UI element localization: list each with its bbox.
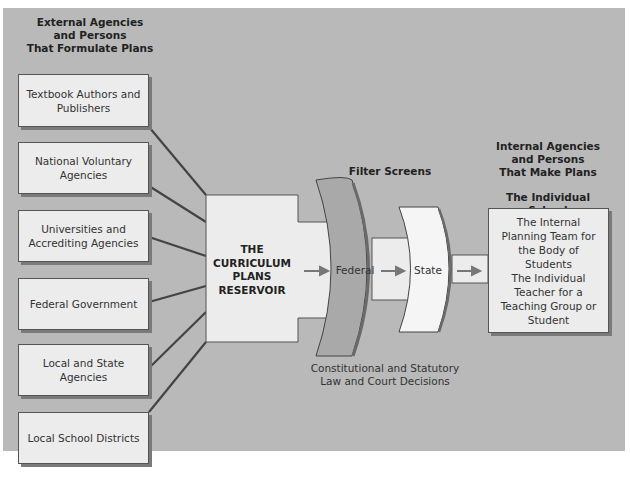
individual-school-box: The Internal Planning Team for the Body …: [488, 208, 609, 333]
school-item-individual-teacher: The Individual Teacher for a Teaching Gr…: [493, 271, 605, 327]
header-line: That Make Plans: [488, 166, 608, 179]
agency-label: National Voluntary Agencies: [19, 154, 148, 182]
right-header: Internal Agencies and Persons That Make …: [488, 140, 608, 179]
reservoir-line: CURRICULUM: [208, 257, 296, 271]
agency-box-local-districts: Local School Districts: [18, 412, 149, 464]
agency-label: Local School Districts: [28, 431, 140, 445]
agency-box-universities: Universities and Accrediting Agencies: [18, 210, 149, 262]
agency-box-national-voluntary: National Voluntary Agencies: [18, 142, 149, 194]
header-line: Internal Agencies: [488, 140, 608, 153]
reservoir-label: THE CURRICULUM PLANS RESERVOIR: [208, 243, 296, 297]
reservoir-line: RESERVOIR: [208, 284, 296, 298]
reservoir-line: THE: [208, 243, 296, 257]
caption-line: Law and Court Decisions: [300, 375, 470, 388]
filter-state-label: State: [410, 264, 446, 277]
filter-federal-label: Federal: [330, 264, 380, 277]
agency-box-textbook-authors: Textbook Authors and Publishers: [18, 74, 149, 127]
agency-label: Local and State Agencies: [19, 356, 148, 384]
header-line: and Persons: [488, 153, 608, 166]
agency-box-federal-government: Federal Government: [18, 278, 149, 330]
filter-caption: Constitutional and Statutory Law and Cou…: [300, 362, 470, 388]
agency-label: Textbook Authors and Publishers: [19, 87, 148, 115]
agency-label: Universities and Accrediting Agencies: [19, 222, 148, 250]
agency-label: Federal Government: [30, 297, 138, 311]
agency-box-local-state: Local and State Agencies: [18, 344, 149, 396]
reservoir-line: PLANS: [208, 270, 296, 284]
filter-screens-title: Filter Screens: [340, 165, 440, 178]
caption-line: Constitutional and Statutory: [300, 362, 470, 375]
school-item-planning-team: The Internal Planning Team for the Body …: [495, 215, 603, 271]
